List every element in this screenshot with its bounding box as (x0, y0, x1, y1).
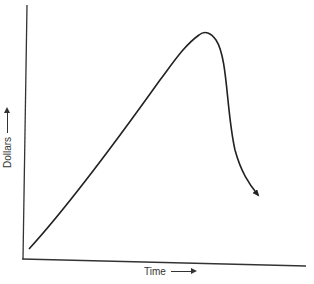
y-axis (23, 5, 27, 259)
x-axis-label: Time (144, 266, 195, 277)
up-arrow-icon (7, 109, 8, 133)
chart-plot (0, 0, 314, 284)
y-axis-label-text: Dollars (2, 137, 13, 168)
x-axis-label-text: Time (144, 266, 166, 277)
data-curve (29, 33, 258, 249)
x-axis (22, 259, 306, 266)
y-axis-label: Dollars (2, 109, 13, 168)
right-arrow-icon (171, 271, 195, 272)
